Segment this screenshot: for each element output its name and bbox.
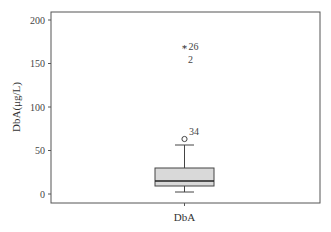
y-tick-50: 50 xyxy=(35,145,45,156)
y-axis-title: DbA(μg/L) xyxy=(10,82,23,132)
iqr-box xyxy=(155,168,214,186)
y-tick-100: 100 xyxy=(30,102,45,113)
y-tick-150: 150 xyxy=(30,58,45,69)
y-axis: 0 50 100 150 200 xyxy=(30,15,51,200)
x-category-label: DbA xyxy=(174,211,195,223)
y-tick-200: 200 xyxy=(30,15,45,26)
outlier-label-34: 34 xyxy=(189,126,199,137)
y-tick-0: 0 xyxy=(40,189,45,200)
extreme-star-marker: * xyxy=(182,43,187,54)
outlier-label-26: 26 xyxy=(189,41,199,52)
outlier-label-2: 2 xyxy=(188,54,193,65)
boxplot-chart: 0 50 100 150 200 DbA(μg/L) DbA 34 * 26 2 xyxy=(0,0,331,232)
outlier-circle-marker xyxy=(182,136,187,141)
